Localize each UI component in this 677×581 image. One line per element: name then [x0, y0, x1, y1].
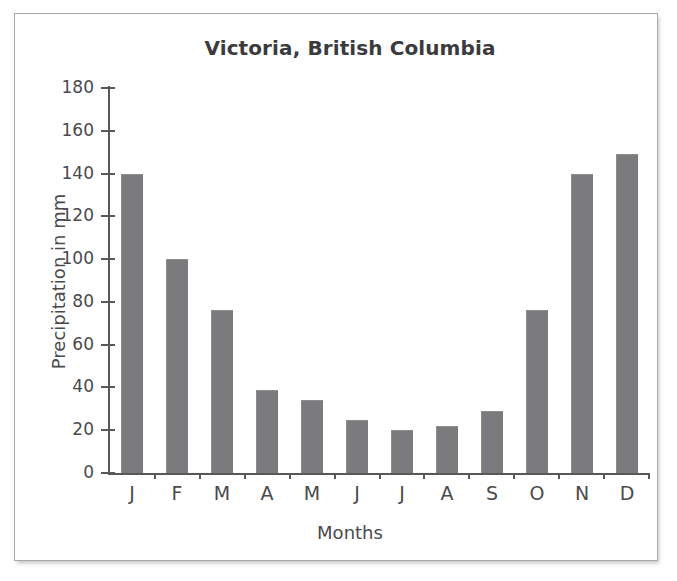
- y-tick-label-box: 120: [38, 207, 94, 225]
- y-tick-label: 20: [42, 421, 94, 438]
- y-tick-label-box: 0: [38, 464, 94, 482]
- y-tick-label-box: 140: [38, 165, 94, 183]
- y-tick-label-box: 180: [38, 79, 94, 97]
- x-tick-mark: [199, 473, 201, 479]
- chart-title: Victoria, British Columbia: [90, 36, 610, 60]
- y-tick-mark: [101, 386, 115, 388]
- y-tick-mark: [101, 344, 115, 346]
- x-axis-title: Months: [95, 522, 605, 543]
- x-tick-label: J: [112, 482, 152, 504]
- x-tick-label: S: [472, 482, 512, 504]
- y-tick-mark: [101, 258, 115, 260]
- y-tick-mark: [101, 173, 115, 175]
- y-tick-label: 80: [42, 293, 94, 310]
- x-tick-label: D: [607, 482, 647, 504]
- x-tick-label: J: [382, 482, 422, 504]
- y-tick-label: 160: [42, 122, 94, 139]
- bar: [436, 426, 458, 473]
- y-tick-label-box: 40: [38, 378, 94, 396]
- y-tick-label: 100: [42, 250, 94, 267]
- y-tick-label: 120: [42, 207, 94, 224]
- y-tick-label-box: 20: [38, 421, 94, 439]
- y-tick-label-box: 80: [38, 293, 94, 311]
- x-tick-label: A: [247, 482, 287, 504]
- bar: [526, 310, 548, 473]
- x-tick-label: J: [337, 482, 377, 504]
- y-tick-label: 180: [42, 79, 94, 96]
- x-tick-mark: [244, 473, 246, 479]
- bar: [121, 174, 143, 473]
- x-tick-mark: [558, 473, 560, 479]
- x-tick-mark: [648, 473, 650, 479]
- chart-figure: Victoria, British Columbia Precipitation…: [0, 0, 677, 581]
- x-tick-mark: [513, 473, 515, 479]
- bar: [391, 430, 413, 473]
- y-tick-label: 0: [42, 464, 94, 481]
- x-tick-mark: [289, 473, 291, 479]
- bar: [481, 411, 503, 473]
- y-tick-mark: [101, 130, 115, 132]
- bar: [256, 390, 278, 473]
- bar: [571, 174, 593, 473]
- x-tick-mark: [334, 473, 336, 479]
- y-tick-mark: [101, 472, 115, 474]
- y-tick-mark: [101, 215, 115, 217]
- plot-area: Victoria, British Columbia Precipitation…: [0, 0, 677, 581]
- x-tick-label: M: [202, 482, 242, 504]
- y-tick-label-box: 100: [38, 250, 94, 268]
- x-tick-label: A: [427, 482, 467, 504]
- y-tick-label: 60: [42, 336, 94, 353]
- x-tick-mark: [154, 473, 156, 479]
- bar: [616, 154, 638, 473]
- y-tick-label: 140: [42, 165, 94, 182]
- x-tick-label: F: [157, 482, 197, 504]
- bar: [166, 259, 188, 473]
- bar: [301, 400, 323, 473]
- x-tick-mark: [423, 473, 425, 479]
- bar: [211, 310, 233, 473]
- x-tick-label: O: [517, 482, 557, 504]
- y-tick-mark: [101, 429, 115, 431]
- bar: [346, 420, 368, 473]
- y-tick-mark: [101, 301, 115, 303]
- y-axis-line: [108, 86, 110, 475]
- y-tick-label-box: 60: [38, 336, 94, 354]
- x-tick-label: M: [292, 482, 332, 504]
- x-tick-mark: [468, 473, 470, 479]
- x-tick-label: N: [562, 482, 602, 504]
- y-tick-mark: [101, 87, 115, 89]
- x-tick-mark: [603, 473, 605, 479]
- y-tick-label: 40: [42, 378, 94, 395]
- x-tick-mark: [379, 473, 381, 479]
- y-tick-label-box: 160: [38, 122, 94, 140]
